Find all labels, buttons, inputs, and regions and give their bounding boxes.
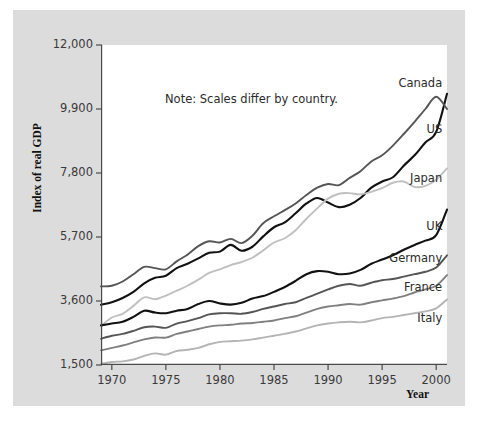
series-label-italy: Italy: [13, 311, 442, 325]
figure-root: Index of real GDP 1,5003,6005,7007,8009,…: [0, 0, 485, 425]
y-tick-label: 1,500: [31, 357, 93, 371]
x-tick-label: 1990: [313, 373, 342, 387]
series-label-germany: Germany: [13, 251, 442, 265]
series-label-canada: Canada: [13, 76, 442, 90]
chart-note: Note: Scales differ by country.: [165, 92, 338, 106]
series-label-japan: Japan: [13, 171, 442, 185]
chart-panel: Index of real GDP 1,5003,6005,7007,8009,…: [13, 10, 465, 406]
series-label-uk: UK: [13, 219, 442, 233]
x-tick-label: 1995: [367, 373, 396, 387]
series-label-france: France: [13, 280, 442, 294]
x-tick-label: 1980: [205, 373, 234, 387]
x-tick-label: 1975: [151, 373, 180, 387]
x-tick-label: 1985: [259, 373, 288, 387]
x-tick-label: 1970: [97, 373, 126, 387]
x-tick-label: 2000: [422, 373, 451, 387]
series-label-us: US: [13, 122, 442, 136]
y-tick-label: 12,000: [31, 37, 93, 51]
y-tick-label: 3,600: [31, 293, 93, 307]
x-axis-title: Year: [406, 388, 429, 400]
y-tick-label: 9,900: [31, 101, 93, 115]
